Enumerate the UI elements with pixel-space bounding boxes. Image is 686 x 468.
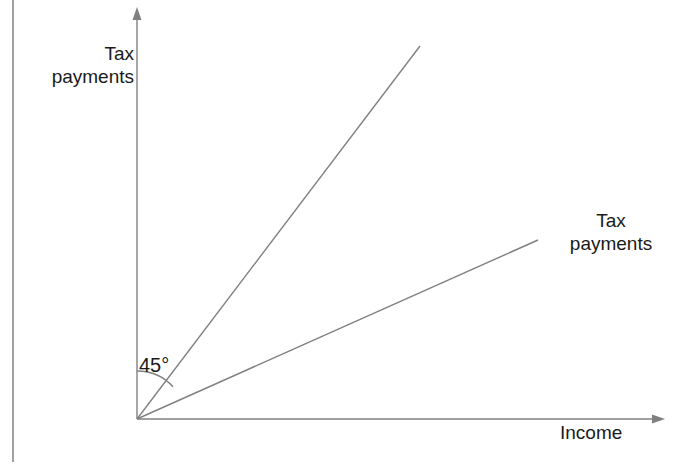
series-label-tax-payments: Tax payments	[546, 209, 676, 255]
y-axis-arrow-icon	[133, 7, 142, 20]
y-axis-label: Tax payments	[0, 42, 134, 88]
figure-canvas: Tax payments Tax payments Income 45°	[0, 0, 686, 468]
angle-label-45: 45°	[139, 353, 169, 377]
series-line-45-degree	[137, 46, 420, 419]
x-axis-label: Income	[560, 421, 680, 444]
series-line-tax-payments	[137, 240, 538, 419]
